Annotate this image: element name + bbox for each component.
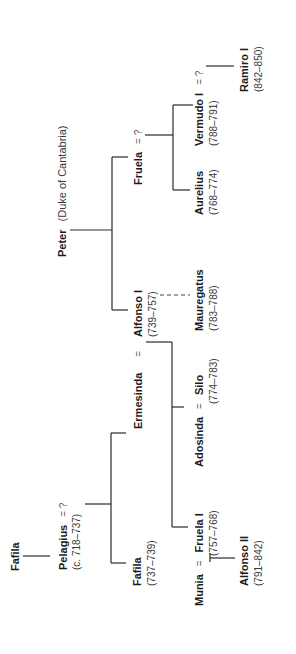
name-label: Peter bbox=[56, 229, 68, 257]
adosinda-name-label: Adosinda bbox=[193, 416, 205, 467]
family-tree-diagram: Fafila Pelagius = ? (c. 718–737) Peter (… bbox=[0, 0, 296, 654]
dates-label: (774–783) bbox=[208, 358, 219, 404]
person-silo-dates: (774–783) bbox=[208, 358, 219, 404]
dates-label: (757–768) bbox=[208, 510, 219, 556]
name-label: Alfonso II bbox=[238, 536, 250, 586]
marriage-label: = bbox=[194, 560, 205, 566]
munia-name-label: Munia bbox=[193, 573, 205, 606]
svg-text:Fruela = ?: Fruela = ? bbox=[128, 129, 145, 185]
dates-label: (c. 718–737) bbox=[71, 514, 82, 570]
svg-text:Ermesinda =: Ermesinda = bbox=[128, 351, 145, 429]
person-pelagius: Pelagius = ? (c. 718–737) bbox=[53, 502, 82, 570]
dates-label: (739–757) bbox=[147, 291, 158, 337]
name-label: Ermesinda bbox=[132, 372, 144, 429]
title-label: (Duke of Cantabria) bbox=[56, 125, 68, 221]
name-label: Alfonso I bbox=[132, 290, 144, 337]
name-label: Aurelius bbox=[193, 171, 205, 215]
dates-label: (788–791) bbox=[208, 100, 219, 146]
svg-text:Adosinda = Silo: Adosinda = Silo bbox=[189, 375, 206, 467]
dates-label: (842–850) bbox=[253, 46, 264, 92]
person-alfonso-i: Alfonso I (739–757) bbox=[132, 290, 158, 337]
person-mauregatus: Mauregatus (783–788) bbox=[193, 269, 219, 331]
name-label: Ramiro I bbox=[238, 48, 250, 92]
person-aurelius: Aurelius (768–774) bbox=[193, 169, 219, 215]
name-label: Mauregatus bbox=[193, 269, 205, 331]
dates-label: (791–842) bbox=[253, 540, 264, 586]
marriage-label: = bbox=[194, 403, 205, 409]
person-ermesinda: Ermesinda = bbox=[128, 351, 145, 429]
name-label: Fafila bbox=[9, 541, 21, 571]
svg-text:Pelagius = ?: Pelagius = ? bbox=[53, 502, 70, 570]
person-fruela-i-dates: (757–768) bbox=[208, 510, 219, 556]
name-label: Fruela bbox=[132, 151, 144, 185]
fruela-i-name-label: Fruela I bbox=[193, 513, 205, 552]
name-label: Vermudo I bbox=[193, 93, 205, 146]
svg-text:Munia = Fruela I: Munia = Fruela I bbox=[189, 513, 206, 606]
spouse-label: = ? bbox=[58, 502, 69, 517]
svg-text:Vermudo I = ?: Vermudo I = ? bbox=[189, 70, 206, 146]
person-vermudo-i: Vermudo I = ? (788–791) bbox=[189, 70, 219, 146]
person-munia-fruela-i: Munia = Fruela I bbox=[189, 513, 206, 606]
name-label: Fafila bbox=[131, 556, 143, 586]
person-fafila: Fafila (737–739) bbox=[131, 540, 157, 586]
person-fafila-elder: Fafila bbox=[9, 541, 21, 571]
dates-label: (768–774) bbox=[208, 169, 219, 215]
person-peter: Peter (Duke of Cantabria) bbox=[52, 125, 69, 257]
svg-text:Peter (Duke of Cantabria: Peter (Duke of Cantabria) bbox=[52, 125, 69, 257]
silo-name-label: Silo bbox=[193, 375, 205, 395]
marriage-label: = bbox=[133, 351, 144, 357]
person-adosinda-silo: Adosinda = Silo bbox=[189, 375, 206, 467]
dates-label: (737–739) bbox=[146, 540, 157, 586]
person-ramiro-i: Ramiro I (842–850) bbox=[238, 46, 264, 92]
person-fruela: Fruela = ? bbox=[128, 129, 145, 185]
spouse-label: = ? bbox=[194, 70, 205, 85]
person-alfonso-ii: Alfonso II (791–842) bbox=[238, 536, 264, 586]
spouse-label: = ? bbox=[133, 129, 144, 144]
dates-label: (783–788) bbox=[208, 285, 219, 331]
name-label: Pelagius bbox=[57, 525, 69, 570]
